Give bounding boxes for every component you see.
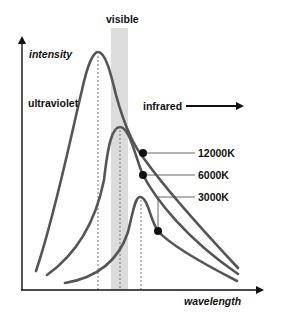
x-axis-label: wavelength — [184, 295, 241, 307]
label-6000k: 6000K — [198, 169, 229, 181]
marker-3000k — [154, 227, 162, 235]
blackbody-diagram: visible intensity ultraviolet infrared 1… — [0, 0, 281, 316]
y-axis-label: intensity — [29, 48, 73, 60]
visible-label: visible — [106, 13, 139, 25]
marker-6000k — [139, 171, 147, 179]
infrared-label: infrared — [143, 100, 182, 112]
marker-12000k — [139, 149, 147, 157]
ultraviolet-label: ultraviolet — [28, 97, 79, 109]
label-12000k: 12000K — [198, 147, 235, 159]
label-3000k: 3000K — [198, 191, 229, 203]
